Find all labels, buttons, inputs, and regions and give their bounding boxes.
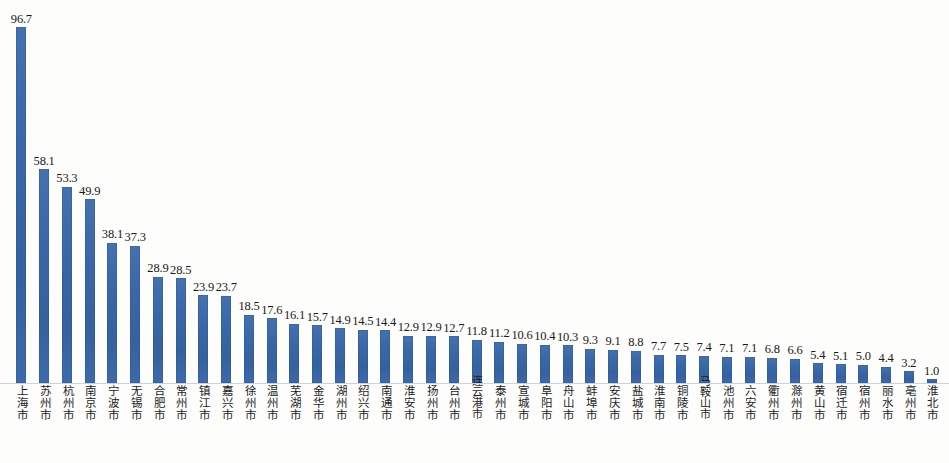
category-label-舟山市: 舟山市 bbox=[557, 385, 579, 461]
bar-丽水市[interactable]: 4.4 bbox=[875, 367, 897, 383]
bar-亳州市[interactable]: 3.2 bbox=[898, 371, 920, 383]
bar-rect[interactable] bbox=[881, 367, 891, 383]
bar-rect[interactable] bbox=[335, 328, 345, 383]
bar-rect[interactable] bbox=[85, 199, 95, 383]
bar-淮安市[interactable]: 12.9 bbox=[397, 336, 419, 383]
bar-rect[interactable] bbox=[198, 295, 208, 383]
bar-rect[interactable] bbox=[107, 243, 117, 383]
bar-rect[interactable] bbox=[472, 340, 482, 383]
bar-上海市[interactable]: 96.7 bbox=[10, 27, 32, 383]
category-label-text: 宿迁市 bbox=[835, 385, 847, 421]
bar-rect[interactable] bbox=[39, 169, 49, 383]
category-label-text: 绍兴市 bbox=[357, 385, 369, 421]
bar-宿州市[interactable]: 5.0 bbox=[852, 365, 874, 383]
bar-rect[interactable] bbox=[267, 318, 277, 383]
bar-金华市[interactable]: 15.7 bbox=[306, 325, 328, 383]
bar-合肥市[interactable]: 28.9 bbox=[147, 277, 169, 383]
category-label-丽水市: 丽水市 bbox=[875, 385, 897, 461]
bar-rect[interactable] bbox=[312, 325, 322, 383]
bar-rect[interactable] bbox=[608, 350, 618, 384]
bar-徐州市[interactable]: 18.5 bbox=[238, 315, 260, 383]
bar-泰州市[interactable]: 11.2 bbox=[488, 342, 510, 383]
bar-芜湖市[interactable]: 16.1 bbox=[283, 324, 305, 383]
bar-六安市[interactable]: 7.1 bbox=[739, 357, 761, 383]
category-label-淮安市: 淮安市 bbox=[397, 385, 419, 461]
bar-rect[interactable] bbox=[176, 278, 186, 383]
bar-rect[interactable] bbox=[745, 357, 755, 383]
bar-宿迁市[interactable]: 5.1 bbox=[830, 364, 852, 383]
bar-rect[interactable] bbox=[62, 187, 72, 383]
bar-镇江市[interactable]: 23.9 bbox=[192, 295, 214, 383]
bar-滁州市[interactable]: 6.6 bbox=[784, 359, 806, 383]
bar-扬州市[interactable]: 12.9 bbox=[420, 336, 442, 383]
bar-rect[interactable] bbox=[244, 315, 254, 383]
bar-rect[interactable] bbox=[16, 27, 26, 383]
bar-铜陵市[interactable]: 7.5 bbox=[670, 355, 692, 383]
bar-池州市[interactable]: 7.1 bbox=[716, 357, 738, 383]
bar-舟山市[interactable]: 10.3 bbox=[557, 345, 579, 383]
bar-value-label: 10.4 bbox=[534, 330, 555, 343]
bar-rect[interactable] bbox=[836, 364, 846, 383]
bar-rect[interactable] bbox=[813, 363, 823, 383]
bar-value-label: 23.9 bbox=[193, 281, 214, 294]
bar-安庆市[interactable]: 9.1 bbox=[602, 350, 624, 384]
bar-rect[interactable] bbox=[767, 358, 777, 383]
bar-rect[interactable] bbox=[676, 355, 686, 383]
bar-无锡市[interactable]: 37.3 bbox=[124, 246, 146, 383]
bar-衢州市[interactable]: 6.8 bbox=[761, 358, 783, 383]
category-label-text: 金华市 bbox=[311, 385, 323, 421]
category-label-连云港市: 连云港市 bbox=[466, 385, 488, 461]
bar-rect[interactable] bbox=[358, 330, 368, 383]
bar-杭州市[interactable]: 53.3 bbox=[56, 187, 78, 383]
bar-rect[interactable] bbox=[699, 356, 709, 383]
category-label-text: 苏州市 bbox=[38, 385, 50, 421]
bar-rect[interactable] bbox=[563, 345, 573, 383]
bar-淮南市[interactable]: 7.7 bbox=[648, 355, 670, 383]
bar-rect[interactable] bbox=[130, 246, 140, 383]
category-label-镇江市: 镇江市 bbox=[192, 385, 214, 461]
bar-阜阳市[interactable]: 10.4 bbox=[534, 345, 556, 383]
bar-rect[interactable] bbox=[289, 324, 299, 383]
bar-rect[interactable] bbox=[221, 296, 231, 383]
bar-温州市[interactable]: 17.6 bbox=[261, 318, 283, 383]
bar-宁波市[interactable]: 38.1 bbox=[101, 243, 123, 383]
category-label-text: 杭州市 bbox=[61, 385, 73, 421]
bar-苏州市[interactable]: 58.1 bbox=[33, 169, 55, 383]
axis-baseline bbox=[0, 383, 949, 384]
bar-rect[interactable] bbox=[403, 336, 413, 383]
bar-南通市[interactable]: 14.4 bbox=[374, 330, 396, 383]
bar-rect[interactable] bbox=[517, 344, 527, 383]
category-label-温州市: 温州市 bbox=[261, 385, 283, 461]
bar-rect[interactable] bbox=[449, 336, 459, 383]
bar-南京市[interactable]: 49.9 bbox=[79, 199, 101, 383]
category-label-text: 南通市 bbox=[380, 385, 392, 421]
bar-rect[interactable] bbox=[380, 330, 390, 383]
bar-绍兴市[interactable]: 14.5 bbox=[352, 330, 374, 383]
bar-rect[interactable] bbox=[631, 351, 641, 383]
bar-盐城市[interactable]: 8.8 bbox=[625, 351, 647, 383]
bar-rect[interactable] bbox=[494, 342, 504, 383]
bar-蚌埠市[interactable]: 9.3 bbox=[579, 349, 601, 383]
bar-黄山市[interactable]: 5.4 bbox=[807, 363, 829, 383]
bar-rect[interactable] bbox=[153, 277, 163, 383]
bar-rect[interactable] bbox=[904, 371, 914, 383]
category-label-text: 泰州市 bbox=[494, 385, 506, 421]
bar-rect[interactable] bbox=[426, 336, 436, 383]
bar-台州市[interactable]: 12.7 bbox=[443, 336, 465, 383]
bar-rect[interactable] bbox=[858, 365, 868, 383]
bar-常州市[interactable]: 28.5 bbox=[170, 278, 192, 383]
bar-嘉兴市[interactable]: 23.7 bbox=[215, 296, 237, 383]
category-label-池州市: 池州市 bbox=[716, 385, 738, 461]
bar-宣城市[interactable]: 10.6 bbox=[511, 344, 533, 383]
bar-rect[interactable] bbox=[654, 355, 664, 383]
bar-连云港市[interactable]: 11.8 bbox=[466, 340, 488, 383]
bar-湖州市[interactable]: 14.9 bbox=[329, 328, 351, 383]
bar-马鞍山市[interactable]: 7.4 bbox=[693, 356, 715, 383]
category-label-芜湖市: 芜湖市 bbox=[283, 385, 305, 461]
bar-value-label: 11.2 bbox=[489, 327, 510, 340]
bar-rect[interactable] bbox=[722, 357, 732, 383]
bar-rect[interactable] bbox=[585, 349, 595, 383]
bar-rect[interactable] bbox=[540, 345, 550, 383]
category-label-苏州市: 苏州市 bbox=[33, 385, 55, 461]
bar-rect[interactable] bbox=[790, 359, 800, 383]
